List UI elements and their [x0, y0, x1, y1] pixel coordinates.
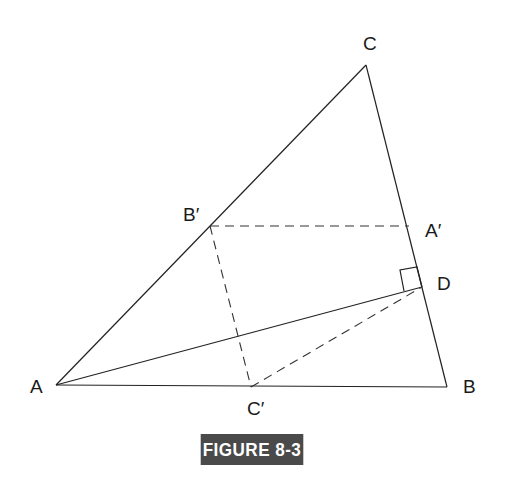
geometry-diagram: C A B B′ A′ D C′	[0, 0, 508, 489]
side-ca	[56, 65, 366, 385]
label-a-prime: A′	[425, 220, 442, 241]
figure-caption-badge: FIGURE 8-3	[201, 434, 304, 465]
label-c-prime: C′	[247, 398, 265, 419]
label-a: A	[30, 376, 43, 397]
dashed-cprime-d	[251, 287, 422, 387]
label-c: C	[363, 33, 377, 54]
label-b: B	[463, 376, 476, 397]
altitude-ad	[56, 287, 422, 385]
dashed-bprime-cprime	[210, 226, 251, 387]
label-d: D	[437, 273, 451, 294]
label-b-prime: B′	[183, 204, 200, 225]
